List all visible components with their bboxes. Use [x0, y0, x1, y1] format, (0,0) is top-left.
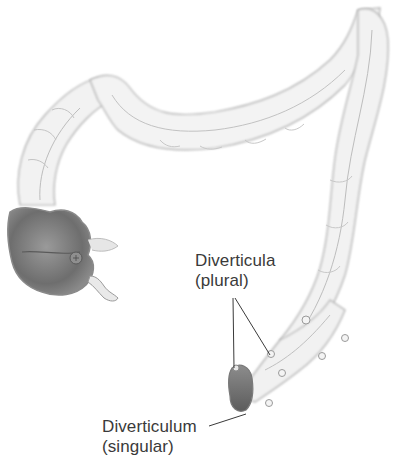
- label-diverticula-qualifier: (plural): [195, 271, 275, 291]
- label-diverticulum-term: Diverticulum: [102, 417, 197, 437]
- transverse-colon: [90, 8, 380, 150]
- label-diverticulum-qualifier: (singular): [102, 437, 197, 457]
- leader-line-diverticulum: [209, 414, 246, 426]
- leader-line-diverticula-2: [235, 298, 270, 355]
- label-diverticula-term: Diverticula: [195, 251, 275, 271]
- label-diverticula-plural: Diverticula (plural): [195, 251, 275, 291]
- label-diverticulum-singular: Diverticulum (singular): [102, 417, 197, 457]
- colon-illustration: [0, 0, 393, 464]
- cecum-cross-section: [8, 208, 118, 301]
- leader-line-diverticula-1: [233, 298, 234, 368]
